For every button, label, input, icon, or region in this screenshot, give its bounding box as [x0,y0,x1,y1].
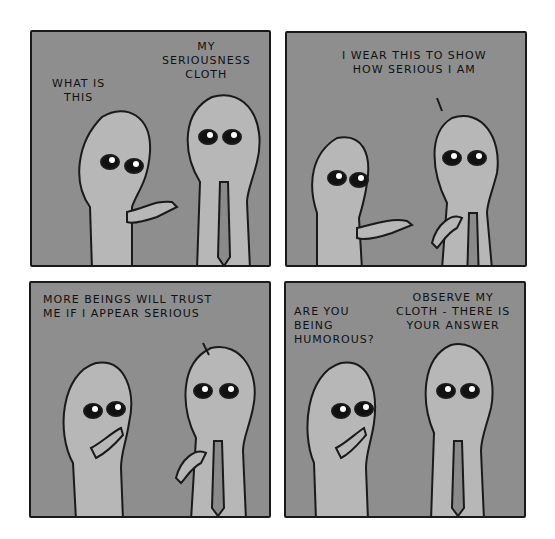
tall-alien [426,344,493,518]
comic-panel-3: MORE BEINGS WILL TRUST ME IF I APPEAR SE… [29,281,271,518]
speech-observe-my-cloth: OBSERVE MY CLOTH - THERE IS YOUR ANSWER [396,291,510,333]
short-alien [312,137,412,267]
speech-more-beings: MORE BEINGS WILL TRUST ME IF I APPEAR SE… [43,293,212,321]
speech-i-wear-this: I WEAR THIS TO SHOW HOW SERIOUS I AM [342,49,487,77]
tie [452,441,464,516]
comic-panel-4: ARE YOU BEING HUMOROUS? OBSERVE MY CLOTH… [284,281,526,518]
tall-alien [188,95,260,267]
tall-alien [432,116,498,267]
tall-alien [176,347,255,518]
speech-are-you-humorous: ARE YOU BEING HUMOROUS? [294,305,375,347]
tie [218,182,230,266]
tie [467,213,479,267]
short-alien [307,363,375,518]
speech-what-is-this: WHAT IS THIS [52,77,105,105]
comic-panel-1: WHAT IS THIS MY SERIOUSNESS CLOTH [30,30,271,267]
speech-seriousness-cloth: MY SERIOUSNESS CLOTH [162,40,251,82]
comic-panel-2: I WEAR THIS TO SHOW HOW SERIOUS I AM [285,31,527,267]
tie [212,441,224,516]
short-alien [64,363,132,518]
short-alien [79,111,177,267]
